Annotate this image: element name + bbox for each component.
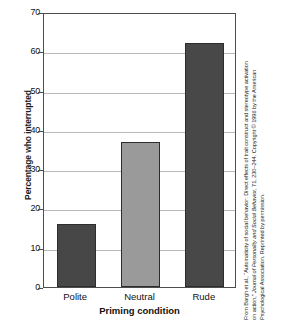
y-tick-mark <box>38 288 43 289</box>
y-tick-mark <box>38 92 43 93</box>
bar-polite <box>57 224 96 287</box>
y-tick-mark <box>38 131 43 132</box>
y-tick-label: 0 <box>18 283 40 292</box>
x-tick-label: Polite <box>43 291 107 302</box>
y-tick-label: 10 <box>18 244 40 253</box>
x-tick-label: Neutral <box>107 291 171 302</box>
y-tick-mark <box>38 13 43 14</box>
x-axis-title: Priming condition <box>43 305 236 316</box>
plot-area <box>43 13 236 288</box>
y-tick-label: 60 <box>18 47 40 56</box>
source-credit: From Bargh et al., “Automaticity of soci… <box>241 0 287 324</box>
y-tick-label: 70 <box>18 8 40 17</box>
y-axis-tick-labels: 706050403020100 <box>18 0 40 324</box>
y-tick-label: 30 <box>18 165 40 174</box>
y-tick-label: 20 <box>18 204 40 213</box>
y-tick-label: 50 <box>18 87 40 96</box>
y-tick-mark <box>38 249 43 250</box>
source-credit-line-2: on action,” Journal of Personality and S… <box>251 70 257 320</box>
bar-chart-figure: Percentage who interrupted 7060504030201… <box>0 0 287 324</box>
y-tick-mark <box>38 170 43 171</box>
journal-name: Journal of Personality and Social Behavi… <box>251 190 257 293</box>
y-tick-mark <box>38 52 43 53</box>
y-tick-label: 40 <box>18 126 40 135</box>
x-tick-label: Rude <box>172 291 236 302</box>
y-tick-mark <box>38 209 43 210</box>
source-credit-line-3: Psychological Association. Reprinted by … <box>259 194 265 320</box>
bar-neutral <box>121 142 160 287</box>
bars-layer <box>44 14 235 287</box>
x-axis-tick-labels: PoliteNeutralRude <box>43 291 236 305</box>
source-credit-line-1: From Bargh et al., “Automaticity of soci… <box>243 61 249 320</box>
bar-rude <box>185 43 224 287</box>
